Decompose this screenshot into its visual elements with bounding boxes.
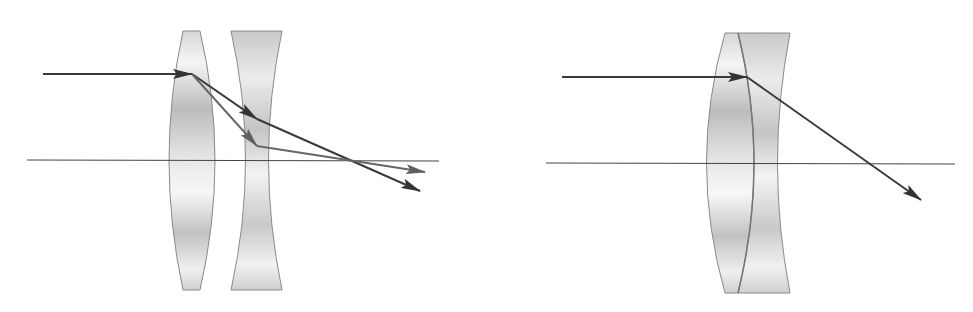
ray-1-segment-b: [257, 119, 420, 191]
ray-2-segment-b: [257, 146, 425, 172]
lens-diagram: [0, 0, 973, 312]
left-lens-system: [27, 31, 439, 290]
optical-axis-left: [27, 160, 439, 161]
optical-axis-right: [546, 163, 955, 164]
right-lens-system: [546, 33, 955, 293]
